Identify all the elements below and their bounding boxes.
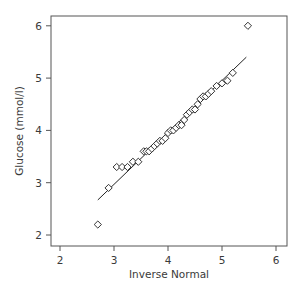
x-axis-title: Inverse Normal: [129, 268, 209, 280]
y-axis: 23456: [35, 20, 51, 241]
data-points: [94, 22, 251, 228]
y-axis-title: Glucose (mmol/l): [13, 86, 25, 176]
x-tick-label: 5: [219, 254, 226, 266]
y-tick-label: 4: [35, 124, 42, 136]
y-tick-label: 5: [35, 72, 42, 84]
diamond-marker: [229, 69, 236, 76]
qq-plot: 23456 23456 Inverse Normal Glucose (mmol…: [0, 0, 302, 289]
x-tick-label: 4: [165, 254, 172, 266]
x-tick-label: 3: [111, 254, 118, 266]
x-tick-label: 2: [57, 254, 64, 266]
diamond-marker: [244, 22, 251, 29]
y-tick-label: 3: [35, 177, 42, 189]
x-tick-label: 6: [273, 254, 280, 266]
diamond-marker: [105, 184, 112, 191]
y-tick-label: 2: [35, 229, 42, 241]
y-tick-label: 6: [35, 20, 42, 32]
x-axis: 23456: [57, 246, 280, 266]
diamond-marker: [94, 221, 101, 228]
